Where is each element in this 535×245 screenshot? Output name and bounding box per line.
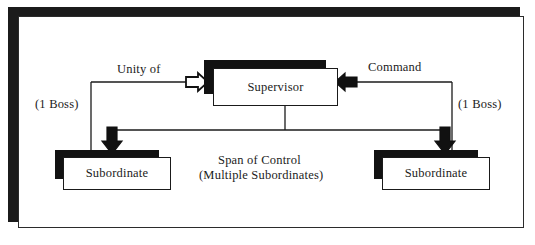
node-subordinate-right[interactable]: Subordinate — [374, 150, 490, 190]
connector-span-of-control — [112, 106, 445, 140]
node-subordinate-right-label: Subordinate — [405, 166, 468, 181]
connector-unity-of — [91, 82, 194, 160]
label-boss-left: (1 Boss) — [35, 97, 79, 112]
node-subordinate-left-label: Subordinate — [86, 166, 149, 181]
connector-layer — [0, 0, 535, 245]
diagram-canvas: Supervisor Subordinate Subordinate Unity… — [0, 0, 535, 245]
node-supervisor[interactable]: Supervisor — [204, 60, 338, 106]
label-span-of-control-line2: (Multiple Subordinates) — [199, 168, 323, 183]
node-subordinate-left-box[interactable]: Subordinate — [63, 157, 171, 190]
label-command: Command — [368, 60, 421, 75]
label-span-of-control-line1: Span of Control — [218, 153, 301, 168]
node-subordinate-left[interactable]: Subordinate — [55, 150, 171, 190]
connector-command — [351, 82, 452, 160]
command-in-arrow-icon — [335, 73, 357, 91]
node-supervisor-label: Supervisor — [247, 80, 303, 95]
node-supervisor-box[interactable]: Supervisor — [213, 68, 338, 106]
label-unity-of: Unity of — [117, 62, 161, 77]
label-boss-right: (1 Boss) — [458, 97, 502, 112]
node-subordinate-right-box[interactable]: Subordinate — [382, 157, 490, 190]
